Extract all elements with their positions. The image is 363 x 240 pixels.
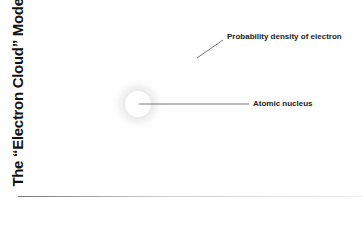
cloud-leader-line bbox=[197, 40, 223, 58]
label-atomic-nucleus: Atomic nucleus bbox=[253, 99, 313, 108]
label-probability-density: Probability density of electron bbox=[227, 32, 342, 41]
bottom-divider bbox=[18, 196, 363, 197]
